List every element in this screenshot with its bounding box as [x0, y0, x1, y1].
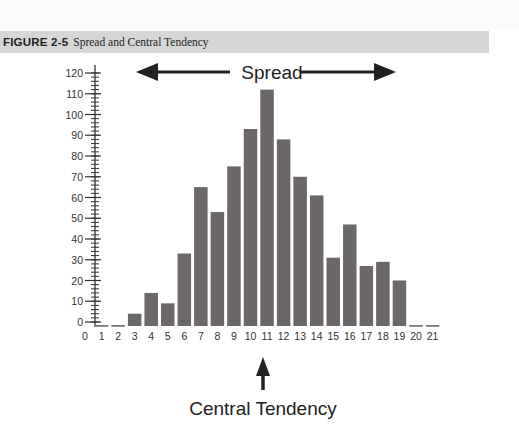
y-tick-label: 0 — [77, 316, 83, 328]
bar-2 — [111, 325, 125, 327]
bar-11 — [260, 90, 274, 326]
x-tick-label: 7 — [198, 330, 204, 342]
x-tick-label: 9 — [231, 330, 237, 342]
bar-4 — [144, 293, 158, 326]
y-tick-label: 30 — [71, 254, 83, 266]
bar-15 — [327, 258, 341, 326]
bar-chart: 0102030405060708090100110120 01234567891… — [0, 0, 519, 432]
x-tick-label: 8 — [214, 330, 220, 342]
bar-5 — [161, 303, 175, 326]
x-tick-label: 1 — [99, 330, 105, 342]
y-tick-label: 90 — [71, 129, 83, 141]
y-tick-label: 120 — [65, 67, 83, 79]
y-tick-label: 10 — [71, 295, 83, 307]
x-tick-label: 18 — [377, 330, 389, 342]
bar-21 — [426, 325, 440, 327]
x-tick-label: 19 — [394, 330, 406, 342]
bar-18 — [376, 262, 390, 326]
arrow-right-icon — [374, 63, 396, 81]
y-tick-label: 100 — [65, 109, 83, 121]
bar-20 — [409, 325, 423, 327]
y-axis: 0102030405060708090100110120 — [65, 65, 101, 328]
x-tick-label: 4 — [148, 330, 154, 342]
x-tick-label: 20 — [410, 330, 422, 342]
bar-9 — [227, 166, 241, 326]
x-tick-label: 2 — [115, 330, 121, 342]
bar-3 — [128, 314, 141, 326]
y-tick-label: 80 — [71, 150, 83, 162]
bar-17 — [360, 266, 374, 326]
spread-annotation: Spread — [136, 62, 396, 83]
y-tick-label: 60 — [71, 192, 83, 204]
y-tick-label: 110 — [66, 88, 83, 100]
central-tendency-annotation: Central Tendency — [189, 357, 337, 419]
bars — [95, 90, 440, 327]
x-tick-label: 14 — [311, 330, 323, 342]
x-tick-label: 13 — [294, 330, 306, 342]
bar-14 — [310, 195, 324, 326]
bar-6 — [178, 254, 192, 326]
bar-16 — [343, 224, 357, 326]
x-tick-label: 6 — [181, 330, 187, 342]
x-tick-label: 15 — [327, 330, 339, 342]
bar-13 — [293, 177, 307, 326]
y-tick-label: 40 — [71, 233, 83, 245]
x-tick-label: 16 — [344, 330, 356, 342]
bar-1 — [95, 325, 109, 327]
x-tick-label: 0 — [82, 330, 88, 342]
x-tick-label: 17 — [361, 330, 373, 342]
x-axis-labels: 0123456789101112131415161718192021 — [82, 330, 438, 342]
spread-label: Spread — [241, 62, 302, 83]
y-tick-label: 20 — [71, 275, 83, 287]
bar-19 — [393, 281, 407, 327]
x-tick-label: 11 — [262, 330, 273, 342]
x-tick-label: 12 — [278, 330, 290, 342]
bar-12 — [277, 139, 291, 326]
bar-10 — [244, 129, 258, 326]
arrow-left-icon — [136, 63, 158, 81]
x-tick-label: 10 — [245, 330, 257, 342]
x-tick-label: 21 — [427, 330, 439, 342]
x-tick-label: 5 — [165, 330, 171, 342]
y-tick-label: 70 — [71, 171, 83, 183]
bar-7 — [194, 187, 208, 326]
bar-8 — [211, 212, 225, 326]
y-tick-label: 50 — [71, 212, 83, 224]
x-tick-label: 3 — [132, 330, 138, 342]
central-tendency-label: Central Tendency — [189, 398, 337, 419]
